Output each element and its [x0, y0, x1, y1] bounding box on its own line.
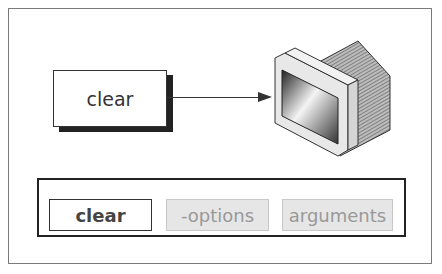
crt-monitor-icon: [270, 38, 400, 163]
arrow-line: [167, 97, 267, 98]
syntax-token-command: clear: [49, 199, 152, 231]
clear-command-box: clear: [53, 70, 167, 127]
syntax-token-options-label: -options: [181, 205, 254, 226]
clear-command-label: clear: [87, 88, 134, 110]
syntax-token-arguments-label: arguments: [289, 205, 386, 226]
syntax-token-command-label: clear: [75, 205, 125, 226]
syntax-token-options: -options: [166, 199, 269, 231]
syntax-token-arguments: arguments: [282, 199, 393, 231]
